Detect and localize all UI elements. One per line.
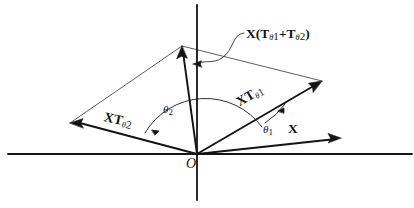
angle-arc-theta2-arrowhead (152, 130, 159, 135)
label-angle-theta2: θ2 (163, 104, 173, 117)
label-angle-theta1: θ1 (263, 124, 273, 137)
label-resultant-close: ) (305, 26, 310, 41)
vector-resultant-shaft (183, 52, 197, 154)
vector-diagram (0, 0, 414, 208)
vector-x-arrowhead (328, 133, 341, 142)
figure-canvas: X(Tθ1+Tθ2) XTθ1 XTθ2 X θ1 θ2 O (0, 0, 414, 208)
vector-xt1-arrowhead (309, 81, 323, 92)
label-resultant: X(Tθ1+Tθ2) (246, 27, 310, 43)
label-theta2-index: 2 (168, 107, 173, 117)
label-vector-x: X (288, 122, 298, 136)
label-theta1-index: 1 (268, 127, 273, 137)
label-resultant-plus: +T (279, 26, 296, 41)
label-resultant-x: X (246, 26, 256, 41)
construction-line-right (182, 46, 322, 81)
label-resultant-open: (T (256, 26, 270, 41)
vector-resultant-arrowhead (177, 46, 188, 59)
vector-xt2-shaft (76, 122, 197, 154)
label-origin: O (186, 157, 196, 171)
leader-line (199, 33, 244, 63)
